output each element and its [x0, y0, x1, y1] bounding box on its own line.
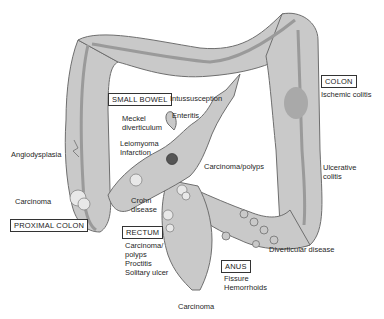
descending-colon	[266, 13, 322, 246]
rectum-line-1: Carcinoma/	[125, 241, 168, 250]
rectum-line-3: Proctitis	[125, 259, 168, 268]
ulcerative-line-1: Ulcerative	[323, 163, 356, 172]
fissure-line: Fissure	[224, 274, 267, 283]
proximal-colon-label: PROXIMAL COLON	[10, 219, 88, 232]
infarction-line: Infarction	[120, 148, 159, 157]
colon-illustration	[0, 0, 384, 319]
rectum-findings-label: Carcinoma/ polyps Proctitis Solitary ulc…	[125, 241, 168, 277]
leiomyoma-label: Leiomyoma Infarction	[120, 139, 159, 157]
leiomyoma-line: Leiomyoma	[120, 139, 159, 148]
crohn-line-1: Crohn	[131, 196, 157, 205]
anus-label: ANUS	[221, 260, 251, 273]
ischemic-colitis-label: Ischemic colitis	[321, 90, 371, 99]
carcinoma-proximal-label: Carcinoma	[15, 197, 51, 206]
carcinoma-anal-label: Carcinoma	[178, 302, 214, 311]
meckel-dot	[167, 154, 178, 165]
small-bowel-label: SMALL BOWEL	[108, 93, 172, 106]
rectum-line-2: polyps	[125, 250, 168, 259]
meckel-label: Meckel diverticulum	[122, 114, 162, 132]
crohn-label: Crohn disease	[131, 196, 157, 214]
ulcerative-line-2: colitis	[323, 172, 356, 181]
intussusception-label: Intussusception	[170, 94, 222, 103]
diverticular-disease-label: Diverticular disease	[269, 245, 334, 254]
anus-findings-label: Fissure Hemorrhoids	[224, 274, 267, 292]
rectum-line-4: Solitary ulcer	[125, 268, 168, 277]
hemorrhoids-line: Hemorrhoids	[224, 283, 267, 292]
colon-label: COLON	[321, 75, 357, 88]
crohn-line-2: disease	[131, 205, 157, 214]
rectum-label: RECTUM	[122, 226, 163, 239]
carcinoma-polyps-label: Carcinoma/polyps	[204, 162, 264, 171]
meckel-line-2: diverticulum	[122, 123, 162, 132]
enteritis-label: Enteritis	[172, 111, 199, 120]
ulcerative-colitis-label: Ulcerative colitis	[323, 163, 356, 181]
meckel-line-1: Meckel	[122, 114, 162, 123]
angiodysplasia-label: Angiodysplasia	[11, 150, 61, 159]
